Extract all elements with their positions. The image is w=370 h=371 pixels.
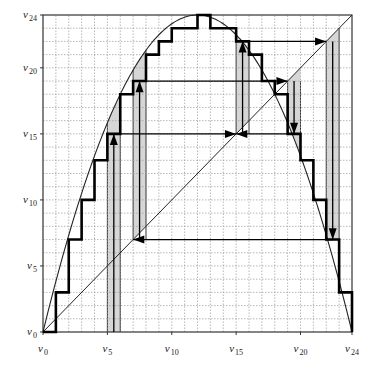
y-tick-label-symbol: v <box>23 193 28 205</box>
y-tick-label-sub: 0 <box>33 331 37 340</box>
horizontal-arrow-head-2 <box>276 77 287 85</box>
y-tick-label: v24 <box>23 8 37 23</box>
x-tick-label-symbol: v <box>229 342 234 354</box>
x-tick-label-symbol: v <box>294 342 299 354</box>
y-tick-label-sub: 24 <box>29 14 37 23</box>
x-tick-label-symbol: v <box>165 342 170 354</box>
y-tick-label: v20 <box>23 61 37 76</box>
x-tick-label-sub: 15 <box>235 348 243 357</box>
x-tick-label: v0 <box>38 342 48 357</box>
x-tick-label-sub: 24 <box>351 348 359 357</box>
x-tick-label-symbol: v <box>38 342 43 354</box>
y-tick-label-sub: 10 <box>29 199 37 208</box>
y-tick-label: v15 <box>23 127 37 142</box>
x-tick-label: v20 <box>294 342 308 357</box>
x-tick-label-symbol: v <box>102 342 107 354</box>
x-tick-label-sub: 0 <box>44 348 48 357</box>
y-tick-label: v5 <box>27 259 37 274</box>
x-tick-label: v24 <box>345 342 359 357</box>
y-tick-label-sub: 20 <box>29 67 37 76</box>
y-tick-label-symbol: v <box>23 8 28 20</box>
y-tick-label-symbol: v <box>23 127 28 139</box>
x-tick-label: v15 <box>229 342 243 357</box>
y-tick-label-sub: 5 <box>33 265 37 274</box>
y-tick-label: v10 <box>23 193 37 208</box>
y-tick-label-sub: 15 <box>29 133 37 142</box>
y-tick-label-symbol: v <box>27 259 32 271</box>
x-tick-label: v10 <box>165 342 179 357</box>
x-tick-label: v5 <box>102 342 112 357</box>
y-tick-label-symbol: v <box>23 61 28 73</box>
horizontal-arrow-head-0 <box>225 130 236 138</box>
tick-labels: v0v5v10v15v20v24v0v5v10v15v20v24 <box>23 8 359 357</box>
cobweb-diagram: v0v5v10v15v20v24v0v5v10v15v20v24 <box>0 0 370 371</box>
x-tick-label-sub: 20 <box>299 348 307 357</box>
y-tick-label-symbol: v <box>27 325 32 337</box>
x-tick-label-sub: 5 <box>108 348 112 357</box>
y-tick-label: v0 <box>27 325 37 340</box>
x-tick-label-symbol: v <box>345 342 350 354</box>
horizontal-arrow-head-3 <box>315 37 326 45</box>
x-tick-label-sub: 10 <box>171 348 179 357</box>
